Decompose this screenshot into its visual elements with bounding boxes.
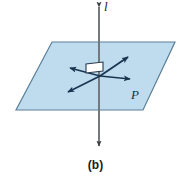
figure-container: l P (b) xyxy=(0,0,191,182)
right-angle-square-marker xyxy=(86,62,103,73)
plane-label-p: P xyxy=(131,88,139,102)
plane-shape xyxy=(16,42,175,110)
figure-caption: (b) xyxy=(0,158,191,172)
geometry-figure xyxy=(0,0,191,182)
line-label-l: l xyxy=(104,0,108,14)
